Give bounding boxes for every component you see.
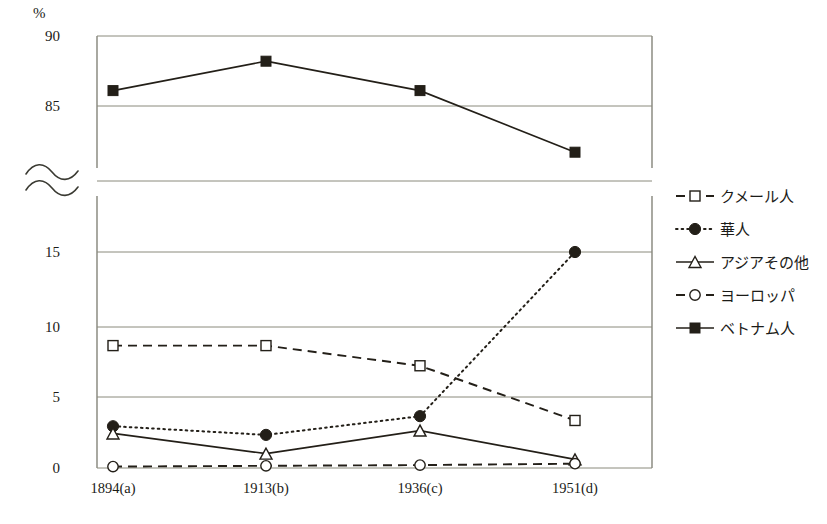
legend-label-3: アジアその他: [720, 254, 809, 271]
chart-figure: % 90 85 15 10 5 0 1894(a) 1913(b) 193: [0, 0, 827, 524]
data-point-5-2: [261, 56, 271, 66]
x-tick-1951: 1951(d): [552, 480, 598, 497]
series-layer: [107, 56, 581, 472]
series-3: [107, 425, 581, 465]
data-point-5-4: [570, 147, 580, 157]
series-line-4: [113, 464, 575, 467]
y-tick-0: 0: [53, 460, 61, 476]
series-1: [108, 341, 580, 426]
filled-square-icon: [690, 323, 700, 333]
legend-item-1[interactable]: クメール人: [676, 188, 794, 205]
data-point-4-4: [570, 458, 580, 468]
filled-circle-icon: [689, 223, 700, 234]
data-point-4-2: [261, 461, 271, 471]
y-tick-85: 85: [45, 98, 60, 114]
data-point-5-1: [108, 86, 118, 96]
legend-item-4[interactable]: ヨーロッパ: [676, 287, 795, 304]
legend-item-3[interactable]: アジアその他: [676, 254, 809, 271]
legend-label-1: クメール人: [720, 188, 794, 205]
data-point-1-4: [570, 415, 580, 425]
y-tick-10: 10: [45, 319, 60, 335]
y-axis-unit-label: %: [33, 5, 46, 21]
axis-break-symbol: [26, 165, 78, 196]
legend-label-2: 華人: [720, 221, 750, 238]
series-line-5: [113, 61, 575, 152]
y-tick-90: 90: [45, 28, 60, 44]
data-point-4-3: [415, 460, 425, 470]
legend-label-5: ベトナム人: [720, 320, 795, 337]
y-tick-5: 5: [53, 389, 61, 405]
series-line-3: [113, 431, 575, 460]
x-tick-1894: 1894(a): [90, 480, 135, 497]
data-point-5-3: [415, 86, 425, 96]
series-line-2: [113, 252, 575, 435]
data-point-2-3: [414, 411, 425, 422]
legend-item-5[interactable]: ベトナム人: [676, 320, 795, 337]
x-tick-1936: 1936(c): [397, 480, 442, 497]
legend-label-4: ヨーロッパ: [720, 287, 795, 304]
series-4: [108, 458, 580, 471]
data-point-1-3: [415, 361, 425, 371]
gridlines: [97, 36, 652, 468]
y-axis-tick-labels: 90 85 15 10 5 0: [45, 28, 60, 476]
data-point-2-2: [260, 429, 271, 440]
chart-legend: クメール人華人アジアその他ヨーロッパベトナム人: [676, 188, 809, 337]
legend-item-2[interactable]: 華人: [676, 221, 750, 238]
data-point-4-1: [108, 461, 118, 471]
x-tick-1913: 1913(b): [243, 480, 289, 497]
data-point-2-4: [569, 246, 580, 257]
open-square-icon: [690, 191, 700, 201]
y-tick-15: 15: [45, 244, 60, 260]
data-point-1-1: [108, 341, 118, 351]
series-line-1: [113, 346, 575, 421]
series-2: [107, 246, 580, 440]
open-circle-icon: [690, 290, 700, 300]
data-point-1-2: [261, 341, 271, 351]
x-axis-tick-labels: 1894(a) 1913(b) 1936(c) 1951(d): [90, 480, 598, 497]
line-chart-canvas: % 90 85 15 10 5 0 1894(a) 1913(b) 193: [0, 0, 827, 524]
series-5: [108, 56, 580, 157]
